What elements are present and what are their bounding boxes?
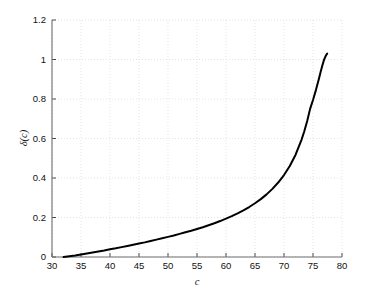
x-tick-label: 60: [221, 260, 232, 271]
x-tick-label: 45: [134, 260, 145, 271]
y-tick-label: 0.2: [33, 212, 46, 223]
x-tick-label: 35: [76, 260, 87, 271]
y-tick-label: 0: [41, 251, 46, 262]
plot-canvas: 3035404550556065707580 00.20.40.60.811.2…: [0, 0, 365, 293]
x-tick-label: 55: [192, 260, 203, 271]
chart-figure: 3035404550556065707580 00.20.40.60.811.2…: [0, 0, 365, 293]
y-tick-label: 1: [41, 54, 46, 65]
y-tick-label: 0.4: [33, 172, 46, 183]
x-tick-label: 30: [47, 260, 58, 271]
x-axis-title: c: [195, 276, 200, 287]
y-tick-label: 1.2: [33, 14, 46, 25]
x-tick-label: 75: [308, 260, 319, 271]
y-tick-label: 0.8: [33, 93, 46, 104]
x-tick-label: 50: [163, 260, 174, 271]
x-tick-label: 65: [250, 260, 261, 271]
x-tick-label: 40: [105, 260, 116, 271]
y-tick-label: 0.6: [33, 133, 46, 144]
y-axis-title: δ(c): [18, 129, 30, 146]
x-tick-label: 70: [279, 260, 290, 271]
figure-background: [0, 0, 365, 293]
x-tick-label: 80: [337, 260, 348, 271]
